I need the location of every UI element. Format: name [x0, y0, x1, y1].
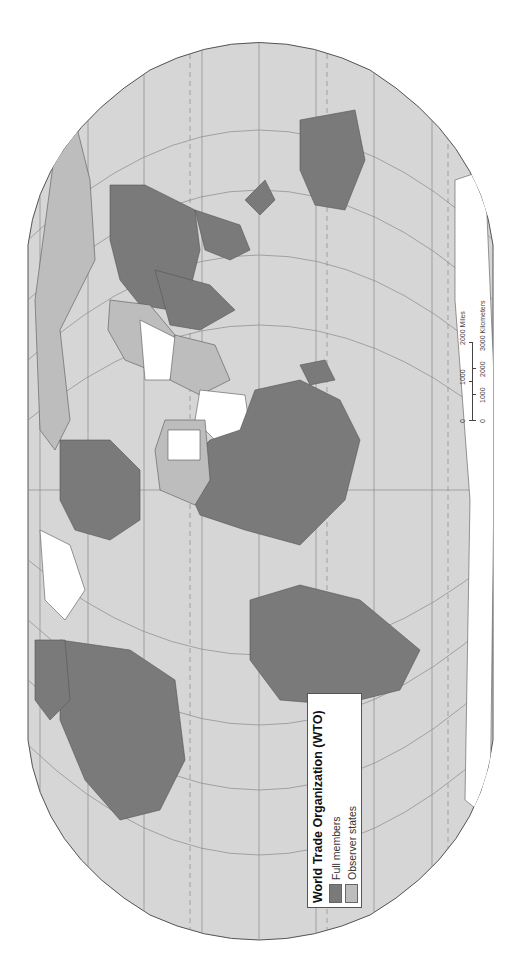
- legend-label: Observer states: [346, 806, 358, 880]
- algeria-libya: [168, 430, 200, 460]
- full-members-swatch: [329, 884, 342, 903]
- legend-item-full-members: Full members: [329, 816, 342, 903]
- map-legend: World Trade Organization (WTO) Full memb…: [307, 693, 362, 908]
- scale-km-tick: 1000: [479, 387, 486, 403]
- legend-label: Full members: [330, 816, 342, 880]
- legend-title: World Trade Organization (WTO): [311, 710, 325, 903]
- observer-states-swatch: [345, 884, 358, 903]
- scale-bar: 0 1000 2000 Miles 0 1000 2000 3000 Kilom…: [455, 285, 495, 425]
- scale-km-tick: 0: [479, 419, 486, 423]
- world-map: [0, 0, 516, 979]
- scale-miles-tick: 1000: [459, 369, 466, 385]
- scale-line: [472, 343, 473, 421]
- scale-miles-tick: 0: [459, 419, 466, 423]
- scale-km-tick: 2000: [479, 361, 486, 377]
- legend-item-observer-states: Observer states: [345, 806, 358, 903]
- scale-km-label: 3000 Kilometers: [479, 300, 486, 351]
- scale-miles-label: 2000 Miles: [459, 311, 466, 345]
